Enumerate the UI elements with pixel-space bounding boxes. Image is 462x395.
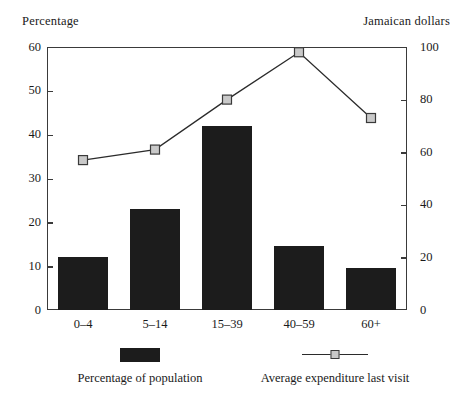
line-markers [79, 48, 376, 165]
legend-line-swatch-row [235, 345, 435, 365]
line-marker [223, 95, 232, 104]
legend-bar-swatch-row [50, 345, 230, 365]
line-marker [295, 48, 304, 57]
square-marker-icon [331, 350, 340, 359]
line-marker [151, 145, 160, 154]
category-label: 5–14 [143, 317, 168, 332]
line-swatch-icon [302, 348, 368, 362]
category-label: 0–4 [74, 317, 93, 332]
legend-label-bars: Percentage of population [50, 371, 230, 386]
legend-item-bars: Percentage of population [50, 345, 230, 386]
chart: Percentage Jamaican dollars 010203040506… [0, 0, 462, 395]
legend-label-line: Average expenditure last visit [235, 371, 435, 386]
legend: Percentage of population Average expendi… [0, 345, 462, 391]
line-series [0, 0, 462, 395]
line-marker [367, 114, 376, 123]
line-marker [79, 156, 88, 165]
category-label: 60+ [361, 317, 381, 332]
bar-swatch-icon [120, 348, 160, 362]
line-path [83, 52, 371, 160]
category-label: 40–59 [283, 317, 314, 332]
category-label: 15–39 [211, 317, 242, 332]
legend-item-line: Average expenditure last visit [235, 345, 435, 386]
